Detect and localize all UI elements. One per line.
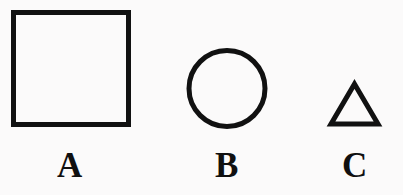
shape-label-c: C [325,148,385,184]
triangle-shape [331,84,378,124]
shapes-svg [0,0,403,140]
shapes-layer [0,0,403,140]
shape-label-b: B [197,148,257,184]
square-shape [14,13,129,125]
circle-shape [189,51,265,127]
shape-label-a: A [40,148,100,184]
figure-container: A B C [0,0,403,195]
shape-labels-row: A B C [0,148,403,195]
